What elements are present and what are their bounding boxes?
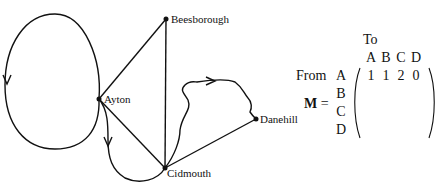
network-diagram [0, 0, 300, 184]
curve-edge-ayton-cidmouth [99, 99, 165, 181]
node-label-danehill: Danehill [260, 113, 298, 125]
matrix-cell: 0 [409, 68, 423, 84]
curve-edge-cidmouth-danehill [165, 80, 256, 168]
equals-sign: = [321, 96, 329, 111]
row-header: A [334, 68, 348, 84]
from-label: From [296, 68, 326, 84]
matrix-cell: 1 [364, 68, 378, 84]
matrix-name: M = [304, 96, 329, 112]
row-header: C [334, 104, 348, 120]
arrow-icon [3, 75, 11, 84]
col-header: B [379, 50, 393, 66]
loop-edge-ayton [5, 14, 99, 149]
edge-cidmouth-danehill [165, 119, 256, 168]
node-danehill [254, 117, 259, 122]
col-header: A [364, 50, 378, 66]
matrix-cell: 2 [394, 68, 408, 84]
edge-ayton-beesborough [99, 19, 166, 99]
node-label-cidmouth: Cidmouth [167, 167, 211, 179]
col-header: C [394, 50, 408, 66]
row-header: D [334, 122, 348, 138]
node-ayton [97, 97, 102, 102]
edge-beesborough-cidmouth [165, 19, 166, 168]
to-label: To [363, 32, 378, 48]
row-header: B [334, 86, 348, 102]
edge-ayton-cidmouth [99, 99, 165, 168]
node-label-ayton: Ayton [104, 93, 131, 105]
col-header: D [409, 50, 423, 66]
matrix-symbol: M [304, 96, 317, 111]
node-label-beesborough: Beesborough [171, 13, 229, 25]
node-beesborough [164, 17, 169, 22]
matrix-cell: 1 [379, 68, 393, 84]
